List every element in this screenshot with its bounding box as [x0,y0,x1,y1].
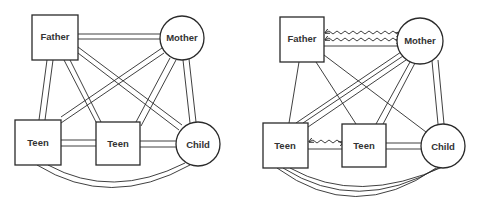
edge-father-mother-conflict [324,31,400,46]
svg-text:Father: Father [40,31,69,42]
right-node-father: Father [280,17,324,62]
edge-teen1-teen2 [61,140,96,146]
edge-teen1-teen2-conflict [308,140,343,149]
left-diagram: Father Mother Teen Teen Child [15,15,220,188]
edge-teen1-child [277,166,445,197]
svg-text:Teen: Teen [27,137,49,148]
svg-text:Mother: Mother [404,35,436,46]
svg-text:Child: Child [186,139,210,150]
edge-teen2-child [140,141,176,147]
svg-text:Father: Father [287,33,316,44]
svg-text:Mother: Mother [166,32,198,43]
edge-mother-teen2 [376,62,415,126]
left-node-teen1: Teen [15,120,61,165]
edge-teen1-child [37,163,190,188]
edge-father-teen2 [316,62,356,124]
left-node-teen2: Teen [96,122,140,165]
right-node-mother: Mother [397,18,443,64]
left-node-father: Father [32,15,78,60]
right-node-teen2: Teen [342,124,386,167]
svg-text:Teen: Teen [274,140,296,151]
left-node-mother: Mother [160,16,204,60]
edge-father-teen1 [289,62,299,123]
edge-mother-child [432,60,444,124]
edge-father-teen2 [64,60,101,122]
left-node-child: Child [176,122,220,166]
edge-mother-child [183,59,196,123]
edge-teen2-child [386,143,421,149]
svg-text:Child: Child [431,141,455,152]
right-diagram: Father Mother Teen Teen Child [263,17,465,197]
edge-father-mother [78,34,161,39]
edge-father-teen1 [39,60,53,120]
family-diagrams: Father Mother Teen Teen Child [0,0,480,210]
right-node-child: Child [421,124,465,168]
right-node-teen1: Teen [263,123,308,168]
svg-text:Teen: Teen [107,138,129,149]
svg-text:Teen: Teen [353,140,375,151]
